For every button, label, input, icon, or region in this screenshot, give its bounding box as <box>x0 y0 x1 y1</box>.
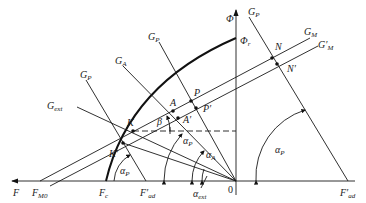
point-n-prime <box>275 62 279 66</box>
label-g-ext: Gext <box>47 100 63 113</box>
alpha-ext-arc <box>202 169 204 181</box>
label-f-m0: FM0 <box>31 187 48 200</box>
point-p-prime <box>194 106 198 110</box>
point-a <box>171 109 175 113</box>
label-phi: Φ <box>226 13 234 24</box>
point-n <box>270 56 274 60</box>
line-g-p-right <box>249 17 348 181</box>
label-g-p-right: GP <box>248 6 260 19</box>
label-beta: β <box>156 116 162 127</box>
label-f: F <box>12 187 20 198</box>
line-g-a <box>123 66 236 181</box>
label-alpha-p-right: αP <box>275 144 285 157</box>
label-k-prime: K′ <box>108 148 119 159</box>
alpha-p-right-arc <box>256 110 305 181</box>
label-f-ad-left: F′ad <box>139 187 156 200</box>
label-g-m: GM <box>304 26 318 39</box>
line-k-prime-origin <box>123 143 236 181</box>
label-n-prime: N′ <box>286 63 297 74</box>
point-p <box>189 99 193 103</box>
label-a: A <box>169 97 177 108</box>
point-k <box>131 129 135 133</box>
label-a-prime: A′ <box>182 114 192 125</box>
label-g-a: GA <box>115 55 127 68</box>
label-alpha-ext: αext <box>193 188 207 201</box>
label-k: K <box>126 117 135 128</box>
label-g-p: GP <box>148 31 160 44</box>
label-p-prime: P′ <box>202 103 212 114</box>
point-a-prime <box>176 116 180 120</box>
label-f-c: Fc <box>98 187 109 200</box>
point-k-prime <box>121 141 125 145</box>
label-phi-r: Φr <box>240 35 251 48</box>
label-g-m-prime: G′M <box>318 39 334 52</box>
label-alpha-a: αA <box>206 149 216 162</box>
label-origin: 0 <box>228 184 233 195</box>
line-g-p-left <box>86 80 146 181</box>
label-alpha-p-center: αP <box>183 135 193 148</box>
label-n: N <box>274 41 283 52</box>
label-f-ad-right: F′ad <box>339 187 356 200</box>
vector-diagram: Φ Φr F FM0 Fc F′ad F′ad 0 GP GA GP Gext … <box>0 0 366 203</box>
label-p: P <box>193 87 200 98</box>
label-alpha-p-left: αP <box>120 165 130 178</box>
line-g-m <box>40 38 310 181</box>
